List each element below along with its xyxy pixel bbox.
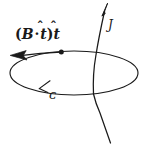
figure-container: (B·̂t)̂t J ᴄ (0, 0, 142, 145)
tangent-symbol-outer: t (53, 26, 59, 42)
open-paren: ( (15, 26, 22, 42)
tangent-unit-vector-inner: ̂t (40, 27, 46, 41)
diagram-canvas (0, 0, 142, 145)
tangential-field-label: (B·̂t)̂t (15, 27, 60, 41)
current-curve-lower (94, 94, 111, 143)
magnetic-field-symbol: B (22, 26, 34, 42)
contour-label: ᴄ (49, 88, 56, 101)
dot-product-operator: · (33, 26, 40, 42)
tangent-unit-vector-outer: ̂t (53, 27, 59, 41)
contour-ellipse (10, 51, 138, 95)
tangent-vector-shaft (21, 52, 62, 55)
current-arrowhead-icon (102, 3, 108, 16)
contour-point-dot (59, 50, 64, 55)
tangent-symbol-inner: t (40, 26, 46, 42)
close-paren: ) (47, 26, 54, 42)
current-label: J (108, 19, 113, 31)
